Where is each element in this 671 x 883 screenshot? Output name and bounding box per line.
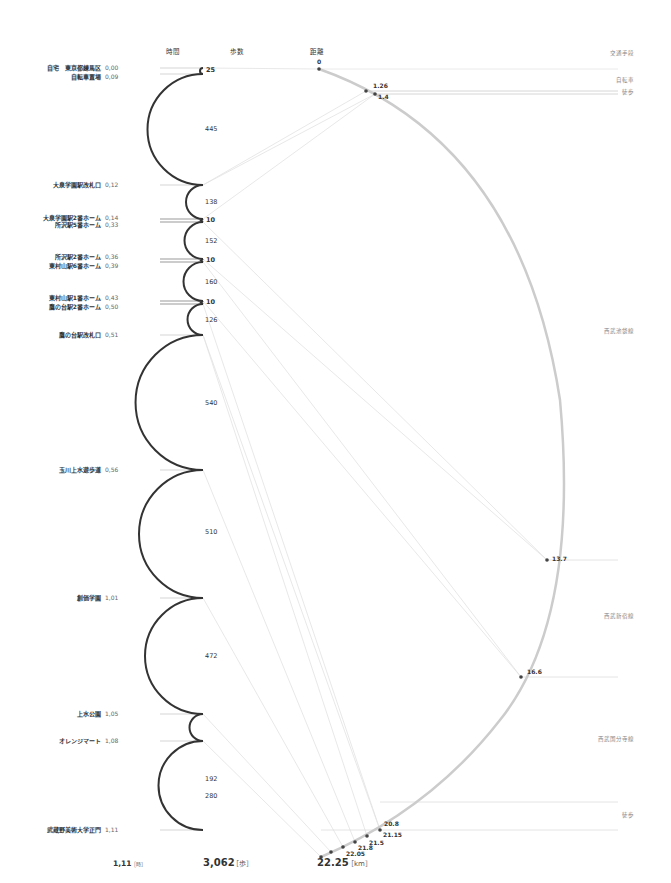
distance-label: 0: [317, 58, 321, 65]
place-name: 自宅 東京都練馬区: [47, 64, 101, 72]
distance-point: [353, 840, 357, 844]
transport-label: 自転車: [616, 76, 634, 84]
place-name: 大泉学園駅改札口: [53, 181, 101, 189]
distance-curve: [319, 69, 564, 857]
distance-label: 22.05: [346, 850, 365, 857]
step-label: 10: [206, 298, 216, 306]
header-time: 時間: [166, 48, 180, 56]
step-label: 138: [205, 198, 217, 206]
transfer-arc: [201, 219, 203, 222]
header-transport: 交通手段: [610, 49, 634, 57]
step-label: 540: [205, 399, 217, 407]
connector-line: [203, 68, 319, 69]
step-arc: [159, 741, 204, 830]
distance-label: 13.7: [552, 555, 567, 562]
connector-lines: [160, 68, 618, 857]
step-label: 10: [206, 256, 216, 264]
place-time: 0,12: [105, 181, 119, 188]
connector-line: [203, 470, 355, 842]
step-label: 10: [206, 216, 216, 224]
connector-line: [203, 301, 521, 677]
place-time: 0,39: [105, 262, 119, 269]
distance-point: [365, 834, 369, 838]
distance-point: [317, 67, 321, 71]
step-label: 126: [205, 316, 217, 324]
step-arc: [139, 470, 203, 598]
distance-point: [329, 850, 333, 854]
distance-label: 1.4: [378, 93, 389, 100]
place-name: 武蔵野美術大学正門: [47, 826, 101, 834]
distance-point: [519, 675, 523, 679]
place-name: オレンジマート: [59, 737, 101, 745]
total-time-unit: ［時］: [131, 861, 146, 868]
step-arc: [136, 335, 203, 470]
step-arc: [186, 185, 203, 219]
place-time: 1,11: [105, 826, 119, 833]
distance-point: [364, 89, 368, 93]
connector-line: [203, 94, 375, 219]
header-steps: 歩数: [230, 47, 244, 56]
distance-point: [545, 558, 549, 562]
connector-line: [203, 335, 367, 836]
place-name: 所沢駅2番ホーム: [55, 253, 101, 261]
distance-point: [373, 92, 377, 96]
place-time: 0,51: [105, 331, 119, 338]
transport-label: 西武国分寺線: [598, 735, 634, 743]
step-arc: [148, 74, 203, 185]
place-name: 上水公園: [77, 710, 101, 718]
transfer-arc: [201, 259, 203, 262]
step-label: 472: [205, 652, 217, 660]
place-name: 創価学園: [76, 594, 101, 602]
place-time: 0,09: [105, 73, 119, 80]
connector-line: [203, 259, 547, 560]
labels: 時間 歩数 距離 交通手段 1,11 ［時］ 3,062 ［歩］ 22.25 ［…: [43, 47, 634, 868]
step-label: 192: [205, 775, 217, 783]
place-time: 0,50: [105, 303, 119, 310]
place-time: 0,56: [105, 466, 119, 473]
transport-label: 西武新宿線: [604, 612, 634, 620]
connector-line: [203, 222, 547, 560]
step-label: 445: [205, 125, 217, 133]
place-time: 1,01: [105, 594, 119, 601]
distance-label: 20.8: [384, 820, 399, 827]
place-time: 0,36: [105, 253, 119, 260]
distance-label: 1.26: [373, 82, 388, 89]
place-name: 東村山駅6番ホーム: [49, 262, 101, 270]
place-name: 玉川上水遊歩道: [59, 466, 101, 474]
step-arc: [145, 598, 203, 714]
connector-line: [203, 304, 380, 830]
connector-line: [203, 741, 321, 857]
transport-label: 西武池袋線: [604, 327, 634, 335]
total-distance-unit: ［km］: [347, 860, 372, 868]
place-time: 1,05: [105, 710, 119, 717]
place-name: 東村山駅1番ホーム: [49, 294, 101, 302]
commute-diagram: 時間 歩数 距離 交通手段 1,11 ［時］ 3,062 ［歩］ 22.25 ［…: [0, 0, 671, 883]
step-arcs: [136, 68, 203, 830]
place-time: 0,33: [105, 221, 119, 228]
connector-line: [203, 91, 366, 185]
step-label: 25: [206, 66, 216, 74]
step-arc: [188, 304, 203, 335]
total-steps-value: 3,062: [203, 857, 235, 868]
step-label: 152: [205, 237, 217, 245]
transfer-arc: [201, 301, 203, 304]
place-name: 自転車置場: [71, 73, 101, 81]
step-label: 280: [205, 792, 217, 800]
distance-label: 21.15: [383, 831, 402, 838]
step-arc: [190, 714, 204, 741]
header-distance: 距離: [310, 47, 324, 56]
total-distance-value: 22.25: [317, 857, 349, 868]
transport-label: 徒歩: [622, 88, 634, 96]
place-time: 0,14: [105, 214, 119, 221]
place-time: 1,08: [105, 737, 119, 744]
place-time: 0,00: [105, 64, 119, 71]
place-time: 0,43: [105, 294, 119, 301]
distance-point: [341, 845, 345, 849]
connector-line: [203, 714, 331, 852]
total-time-value: 1,11: [113, 859, 132, 868]
transport-label: 徒歩: [622, 811, 634, 819]
step-label: 510: [205, 528, 217, 536]
connector-line: [203, 94, 375, 185]
total-steps-unit: ［歩］: [232, 859, 253, 868]
place-name: 鷹の台駅改札口: [59, 331, 101, 339]
